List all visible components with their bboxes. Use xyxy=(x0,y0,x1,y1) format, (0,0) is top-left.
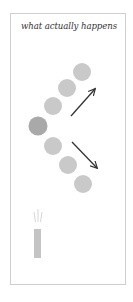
circle-upper-2 xyxy=(58,79,76,97)
spark-line xyxy=(41,212,43,222)
circle-origin xyxy=(29,117,48,136)
circle-lower-3 xyxy=(74,175,92,193)
arrow-group xyxy=(71,89,97,168)
diagram-canvas xyxy=(0,0,133,302)
spark-line xyxy=(34,212,36,222)
arrow-up-right-icon xyxy=(71,89,95,116)
circle-upper-1 xyxy=(44,97,62,115)
circle-lower-2 xyxy=(59,156,77,174)
spark-icon xyxy=(34,209,42,222)
circle-upper-3 xyxy=(73,63,91,81)
circle-lower-1 xyxy=(44,137,62,155)
level-bar xyxy=(34,229,41,258)
circle-group xyxy=(29,63,93,193)
